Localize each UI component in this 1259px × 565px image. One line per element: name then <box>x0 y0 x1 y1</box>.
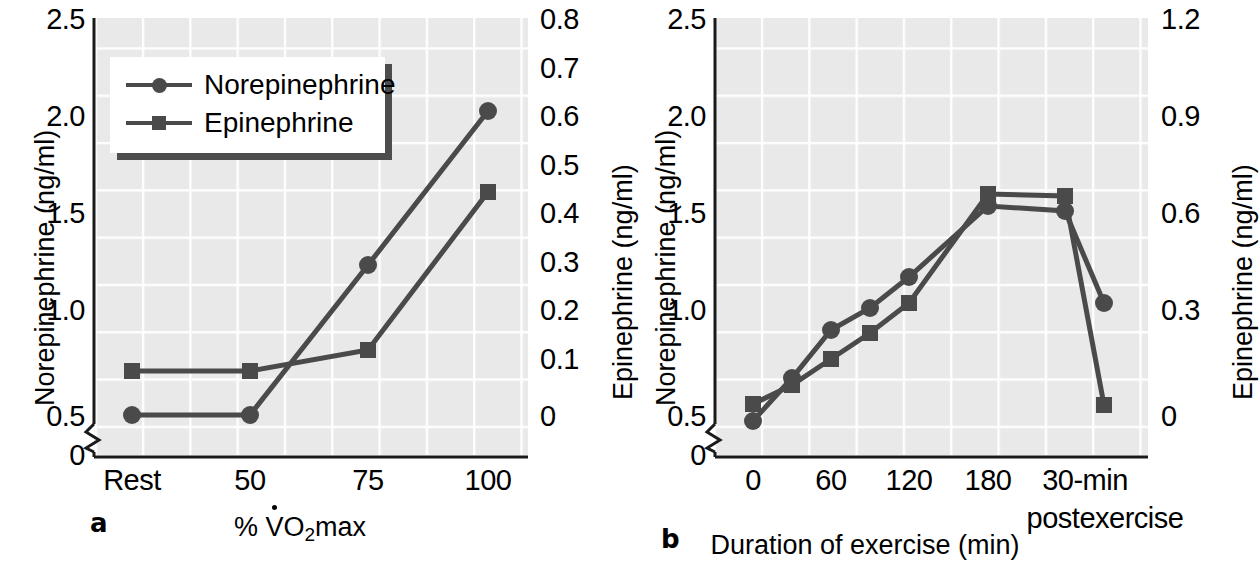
data-point <box>123 406 141 424</box>
y-tick-label: 2.5 <box>10 5 85 34</box>
y-tick-label: 0.5 <box>629 402 706 431</box>
y2-axis-title-b: Epinephrine (ng/ml) <box>1228 164 1259 400</box>
y2-tick-label: 0.4 <box>540 199 579 228</box>
data-point <box>784 377 800 393</box>
x-tick-label: 100 <box>418 466 558 495</box>
y-axis-title-b: Norepinephrine (ng/ml) <box>651 130 682 406</box>
y2-tick-label: 0.3 <box>1161 296 1200 325</box>
data-point <box>1057 188 1073 204</box>
x-axis-title-o: O <box>283 512 304 542</box>
y-tick-label: 0.5 <box>10 402 85 431</box>
panel-letter-b: b <box>661 524 680 554</box>
v-dot-icon: V <box>265 512 283 543</box>
y2-tick-label: 0.6 <box>540 102 579 131</box>
x-axis-title-b: Duration of exercise (min) <box>695 530 1035 561</box>
legend-panel-a: Norepinephrine Epinephrine <box>110 57 385 153</box>
data-point <box>900 268 918 286</box>
data-point <box>861 299 879 317</box>
x-tick-label: 75 <box>298 466 438 495</box>
data-point <box>124 363 140 379</box>
y-tick-label: 2.0 <box>629 102 706 131</box>
data-point <box>359 256 377 274</box>
data-point <box>822 321 840 339</box>
legend-label-epinephrine: Epinephrine <box>204 109 353 137</box>
data-point <box>1095 294 1113 312</box>
y2-tick-label: 0.7 <box>540 54 579 83</box>
x-tick-label: 30-min <box>1015 466 1155 495</box>
legend-label-norepinephrine: Norepinephrine <box>204 71 395 99</box>
x-axis-title-prefix: % <box>234 512 266 542</box>
panel-a: Norepinephrine Epinephrine 2.5 2.0 1.5 1… <box>0 0 620 565</box>
y2-tick-label: 0.6 <box>1161 199 1200 228</box>
data-point <box>745 396 761 412</box>
x-axis-title-suffix: max <box>315 512 366 542</box>
y2-tick-label: 1.2 <box>1161 5 1200 34</box>
data-point <box>360 342 376 358</box>
y-tick-label: 2.0 <box>10 102 85 131</box>
y2-tick-label: 0.3 <box>540 248 579 277</box>
circle-marker-icon <box>126 75 192 95</box>
legend-row-norepinephrine: Norepinephrine <box>126 66 369 104</box>
y2-tick-label: 0.2 <box>540 296 579 325</box>
legend-row-epinephrine: Epinephrine <box>126 104 369 142</box>
y2-tick-label: 0.1 <box>540 345 579 374</box>
square-marker-icon <box>126 113 192 133</box>
y2-tick-label: 0.8 <box>540 5 579 34</box>
y2-tick-label: 0 <box>540 402 556 431</box>
y-axis-title-a: Norepinephrine (ng/ml) <box>30 130 61 406</box>
data-point <box>862 325 878 341</box>
data-point <box>479 102 497 120</box>
x-axis-title-sub: 2 <box>304 524 315 545</box>
x-tick-label-secondary: postexercise <box>1005 504 1205 533</box>
data-point <box>901 295 917 311</box>
y-tick-label: 2.5 <box>629 5 706 34</box>
panel-letter-a: a <box>90 508 108 538</box>
data-point <box>980 186 996 202</box>
data-point <box>744 412 762 430</box>
data-point <box>1096 397 1112 413</box>
y2-tick-label: 0.5 <box>540 151 579 180</box>
data-point <box>241 406 259 424</box>
data-point <box>480 184 496 200</box>
data-point <box>242 363 258 379</box>
y2-tick-label: 0 <box>1161 402 1177 431</box>
data-point <box>823 351 839 367</box>
panel-b: 2.5 2.0 1.5 1.0 0.5 0 1.2 0.9 0.6 0.3 0 … <box>619 0 1239 565</box>
y2-tick-label: 0.9 <box>1161 102 1200 131</box>
x-axis-title-a: % VO2max <box>150 512 450 543</box>
